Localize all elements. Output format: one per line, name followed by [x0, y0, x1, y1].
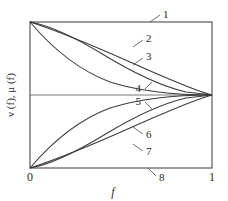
curve-label-4: 4	[136, 82, 142, 94]
y-axis-title: ν (f), μ (f)	[4, 73, 17, 117]
leader-line-7	[133, 144, 143, 151]
leader-line-3	[133, 58, 143, 65]
curve-label-2: 2	[146, 32, 152, 44]
leader-line-1	[150, 15, 160, 22]
curve-label-3: 3	[146, 50, 152, 62]
curve-6	[30, 95, 212, 168]
leader-line-6	[133, 127, 143, 134]
leader-line-8	[148, 168, 156, 176]
curve-label-5: 5	[136, 95, 142, 107]
curve-label-6: 6	[146, 128, 152, 140]
curve-3	[30, 22, 212, 95]
curve-label-7: 7	[146, 145, 152, 157]
leader-line-5	[145, 102, 152, 109]
leader-line-4	[145, 82, 152, 89]
figure-container: 1 2 3 4 5 6 7 8 0 1 f ν (f), μ (f)	[0, 0, 228, 201]
leader-line-2	[133, 40, 143, 47]
curve-label-1: 1	[163, 8, 169, 20]
x-tick-label-0: 0	[27, 170, 33, 184]
x-tick-label-1: 1	[209, 170, 215, 184]
x-axis-title: f	[111, 185, 116, 199]
curve-family-chart: 1 2 3 4 5 6 7 8 0 1 f ν (f), μ (f)	[0, 0, 228, 201]
curve-label-8: 8	[159, 171, 165, 183]
